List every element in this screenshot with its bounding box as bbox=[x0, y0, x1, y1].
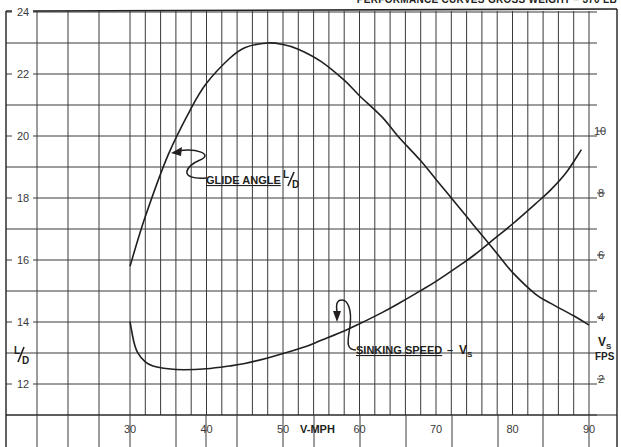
x-tick-label: 90 bbox=[583, 423, 595, 435]
y-tick-label: 24 bbox=[17, 6, 29, 18]
y2-tick-label: 8 bbox=[598, 187, 604, 199]
x-tick-label: 80 bbox=[507, 423, 519, 435]
x-tick-label: 30 bbox=[124, 423, 136, 435]
glide-unit-d: D bbox=[292, 179, 299, 190]
right-axis-fps: FPS bbox=[595, 351, 615, 362]
left-axis-label: L D bbox=[14, 345, 29, 366]
right-axis-label: V S FPS bbox=[595, 335, 615, 362]
glide-angle-annotation: GLIDE ANGLE L D bbox=[171, 147, 299, 190]
y-tick-label: 14 bbox=[17, 316, 29, 328]
performance-chart: 1214161820222424681030405060708090 GLIDE… bbox=[0, 0, 621, 447]
grid bbox=[6, 9, 617, 447]
sinking-unit-s: S bbox=[467, 350, 473, 359]
x-tick-label: 70 bbox=[430, 423, 442, 435]
left-axis-l: L bbox=[14, 345, 20, 356]
y-tick-label: 22 bbox=[17, 68, 29, 80]
glide-unit-l: L bbox=[283, 169, 289, 180]
glide-angle-pointer-arrow bbox=[178, 150, 206, 178]
y-tick-label: 20 bbox=[17, 130, 29, 142]
sinking-speed-label: SINKING SPEED bbox=[356, 344, 442, 356]
sinking-dash: – bbox=[447, 344, 453, 356]
right-axis-s: S bbox=[606, 342, 612, 351]
sinking-unit-v: V bbox=[459, 343, 467, 357]
x-tick-label: 50 bbox=[277, 423, 289, 435]
y-tick-label: 16 bbox=[17, 254, 29, 266]
left-axis-d: D bbox=[22, 355, 29, 366]
x-tick-label: 40 bbox=[201, 423, 213, 435]
arrowhead-icon bbox=[171, 147, 182, 156]
y2-tick-label: 4 bbox=[598, 311, 604, 323]
y-tick-label: 18 bbox=[17, 192, 29, 204]
y2-tick-label: 6 bbox=[598, 249, 604, 261]
glide-angle-label: GLIDE ANGLE bbox=[206, 174, 281, 186]
sinking-speed-annotation: SINKING SPEED – V S bbox=[333, 300, 473, 359]
y2-tick-label: 10 bbox=[594, 125, 606, 137]
x-tick-label: 60 bbox=[354, 423, 366, 435]
y2-tick-label: 2 bbox=[598, 373, 604, 385]
x-axis-label: V-MPH bbox=[300, 423, 335, 435]
sinking-speed-pointer-arrow bbox=[337, 300, 356, 350]
arrowhead-icon bbox=[333, 311, 341, 322]
y-tick-label: 12 bbox=[17, 378, 29, 390]
right-axis-v: V bbox=[598, 335, 606, 349]
